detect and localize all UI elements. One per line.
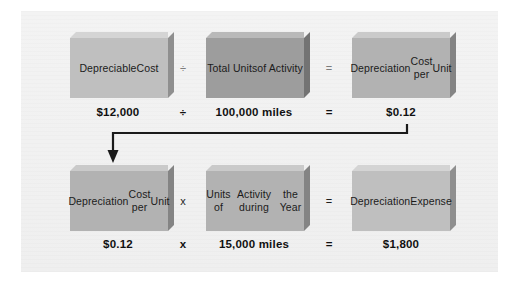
value-depreciation-expense: $1,800 — [345, 238, 457, 251]
value-units-of-activity: 15,000 miles — [198, 238, 310, 251]
value-depreciable-cost: $12,000 — [62, 106, 174, 119]
box-label-line-3: Unit — [433, 62, 452, 75]
operator-multiply-bottom: x — [170, 195, 196, 207]
box-label: Units of Activity during the Year — [206, 171, 304, 231]
box-label-line-3: the Year — [277, 188, 304, 214]
operator-divide-top: ÷ — [170, 62, 196, 74]
box-label: Depreciation Cost per Unit — [352, 38, 450, 98]
box-side-bevel — [304, 165, 310, 231]
box-depreciation-expense: Depreciation Expense — [352, 165, 456, 231]
box-label: Depreciation Cost per Unit — [70, 171, 168, 231]
depreciation-formula-figure: Depreciable Cost ÷ Total Units of Activi… — [0, 0, 512, 285]
value-operator-equals-top: = — [316, 106, 342, 119]
box-label-line-1: Total Units — [207, 62, 257, 75]
box-label-line-2: Activity during — [231, 188, 277, 214]
box-label-line-3: Unit — [151, 195, 170, 208]
value-operator-multiply-bottom: x — [170, 238, 196, 251]
value-cost-per-unit-top: $0.12 — [345, 106, 457, 119]
box-label-line-1: Depreciable — [79, 62, 136, 75]
box-depreciable-cost: Depreciable Cost — [70, 32, 174, 98]
box-label-line-2: Cost — [137, 62, 159, 75]
box-label-line-1: Depreciation — [350, 195, 410, 208]
box-label: Depreciation Expense — [352, 171, 450, 231]
box-side-bevel — [304, 32, 310, 98]
box-label-line-1: Depreciation — [68, 195, 128, 208]
box-depreciation-cost-per-unit-bottom: Depreciation Cost per Unit — [70, 165, 174, 231]
box-label-line-2: Cost per — [411, 55, 433, 81]
operator-equals-bottom: = — [316, 195, 342, 207]
box-label-line-2: of Activity — [257, 62, 302, 75]
box-label: Depreciable Cost — [70, 38, 168, 98]
box-total-units-of-activity: Total Units of Activity — [206, 32, 310, 98]
value-operator-divide-top: ÷ — [170, 106, 196, 119]
value-total-units: 100,000 miles — [198, 106, 310, 119]
box-units-of-activity-during-year: Units of Activity during the Year — [206, 165, 310, 231]
box-label-line-2: Expense — [410, 195, 452, 208]
value-operator-equals-bottom: = — [316, 238, 342, 251]
value-cost-per-unit-bottom: $0.12 — [62, 238, 174, 251]
operator-equals-top: = — [316, 62, 342, 74]
box-label-line-1: Units of — [206, 188, 231, 214]
box-label-line-2: Cost per — [129, 188, 151, 214]
box-depreciation-cost-per-unit-top: Depreciation Cost per Unit — [352, 32, 456, 98]
box-label: Total Units of Activity — [206, 38, 304, 98]
box-label-line-1: Depreciation — [350, 62, 410, 75]
